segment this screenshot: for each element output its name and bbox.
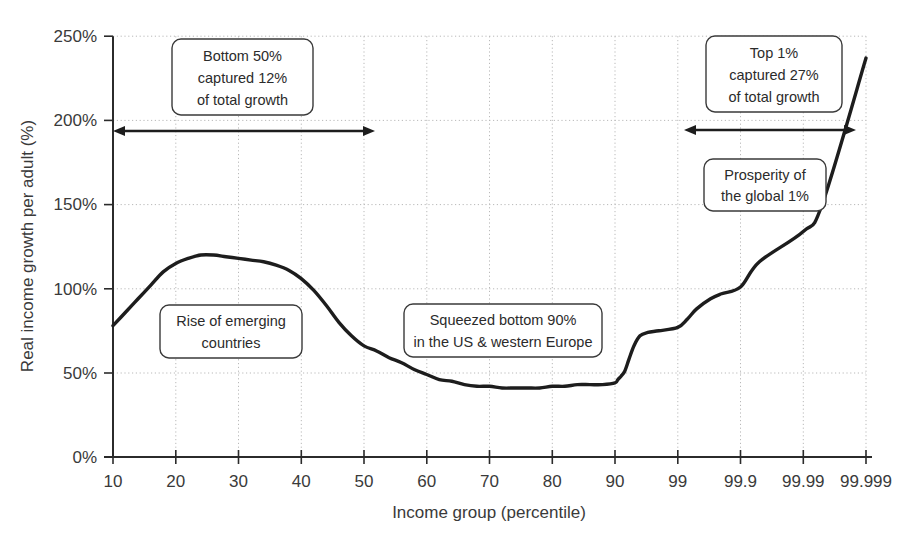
x-tick-label-80: 80 [543,472,562,491]
x-tick-label-99-999: 99.999 [840,472,892,491]
callout-bottom-50-line3: of total growth [197,92,288,108]
x-tick-label-90: 90 [606,472,625,491]
callout-bottom-50: Bottom 50% captured 12% of total growth [172,39,313,115]
callout-emerging-line2: countries [202,335,261,351]
callout-prosperity-line1: Prosperity of [724,167,806,183]
arrowhead-right-end [844,125,856,135]
callout-prosperity: Prosperity of the global 1% [704,159,826,211]
x-tick-label-60: 60 [417,472,436,491]
x-axis-title: Income group (percentile) [392,503,586,522]
callout-squeezed-line2: in the US & western Europe [414,334,593,350]
y-tick-label-150: 150% [54,195,97,214]
callout-bottom-50-line1: Bottom 50% [203,48,282,64]
x-tick-label-50: 50 [355,472,374,491]
x-tick-label-99-99: 99.99 [782,472,825,491]
elephant-curve-chart: 250% 200% 150% 100% 50% 0% 10 20 30 40 5… [0,0,912,545]
arrowhead-left-end [363,126,375,136]
y-tick-label-50: 50% [63,364,97,383]
arrowhead-left-start [113,126,125,136]
y-axis-title: Real income growth per adult (%) [18,120,37,372]
x-tick-label-10: 10 [104,472,123,491]
x-tick-label-99: 99 [668,472,687,491]
y-tick-label-100: 100% [54,280,97,299]
y-tick-labels: 250% 200% 150% 100% 50% 0% [54,27,97,467]
x-tick-label-20: 20 [166,472,185,491]
y-tick-label-250: 250% [54,27,97,46]
callout-bottom-50-line2: captured 12% [198,70,288,86]
callout-prosperity-line2: the global 1% [721,188,809,204]
callout-top-1-line1: Top 1% [750,45,798,61]
x-tick-labels: 10 20 30 40 50 60 70 80 90 99 99.9 99.99… [104,472,892,491]
y-tick-label-0: 0% [72,448,97,467]
callout-emerging-line1: Rise of emerging [176,313,286,329]
y-tick-marks [104,36,113,457]
x-tick-label-99-9: 99.9 [724,472,757,491]
chart-canvas: 250% 200% 150% 100% 50% 0% 10 20 30 40 5… [0,0,912,545]
callout-squeezed-line1: Squeezed bottom 90% [430,312,577,328]
x-tick-label-70: 70 [480,472,499,491]
callout-top-1-line2: captured 27% [729,67,819,83]
x-tick-label-30: 30 [229,472,248,491]
callout-emerging: Rise of emerging countries [160,305,302,358]
bottom-50-span-arrow [113,126,375,136]
callout-top-1: Top 1% captured 27% of total growth [706,36,842,112]
x-tick-label-40: 40 [292,472,311,491]
callout-squeezed: Squeezed bottom 90% in the US & western … [404,304,602,357]
arrowhead-right-start [684,125,696,135]
top-1-span-arrow [684,125,856,135]
y-tick-label-200: 200% [54,111,97,130]
callout-top-1-line3: of total growth [728,89,819,105]
